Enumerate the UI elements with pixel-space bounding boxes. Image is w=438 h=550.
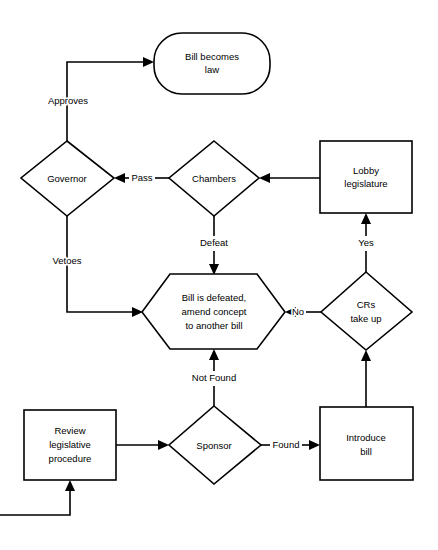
node-label-review-legislative-procedure-line3: procedure xyxy=(49,453,92,464)
node-chambers[interactable]: Chambers xyxy=(169,141,259,216)
node-label-bill-becomes-law-line2: law xyxy=(205,64,219,75)
node-label-governor: Governor xyxy=(47,173,87,184)
node-bill-is-defeated[interactable]: Bill is defeated, amend concept to anoth… xyxy=(142,274,285,349)
node-label-review-legislative-procedure-line1: Review xyxy=(54,425,85,436)
node-sponsor[interactable]: Sponsor xyxy=(169,406,261,484)
node-label-bill-is-defeated-line1: Bill is defeated, xyxy=(182,292,246,303)
edge-label-not-found: Not Found xyxy=(192,372,236,383)
arrowhead-icon xyxy=(361,213,371,224)
node-label-bill-is-defeated-line3: to another bill xyxy=(185,320,242,331)
node-crs-take-up[interactable]: CRs take up xyxy=(321,272,412,350)
arrowhead-icon xyxy=(259,173,270,183)
node-introduce-bill[interactable]: Introduce bill xyxy=(320,407,413,480)
edge-loop-to-review-legislative-procedure xyxy=(0,480,75,515)
arrowhead-icon xyxy=(209,349,219,360)
edge-label-defeat: Defeat xyxy=(200,237,228,248)
node-label-lobby-legislature-line2: legislature xyxy=(344,178,387,189)
node-governor[interactable]: Governor xyxy=(21,141,114,216)
node-label-crs-take-up-line2: take up xyxy=(350,313,381,324)
arrowhead-icon xyxy=(143,57,154,67)
node-review-legislative-procedure[interactable]: Review legislative procedure xyxy=(24,410,116,480)
edge-review-legislative-procedure-to-sponsor xyxy=(116,440,169,450)
edge-introduce-bill-to-crs-take-up xyxy=(361,350,371,407)
arrowhead-icon xyxy=(65,480,75,491)
node-shape-diamond xyxy=(321,272,412,350)
flowchart-diagram: Bill becomes law Governor Chambers Lobby… xyxy=(0,0,438,550)
edge-label-no: No xyxy=(292,306,304,317)
node-label-introduce-bill-line2: bill xyxy=(360,446,372,457)
edge-label-approves: Approves xyxy=(48,95,88,106)
node-label-bill-is-defeated-line2: amend concept xyxy=(182,306,247,317)
node-label-sponsor: Sponsor xyxy=(196,440,231,451)
arrowhead-icon xyxy=(114,173,125,183)
edge-label-vetoes: Vetoes xyxy=(52,255,81,266)
node-bill-becomes-law[interactable]: Bill becomes law xyxy=(154,33,270,94)
node-label-lobby-legislature-line1: Lobby xyxy=(353,165,379,176)
edge-label-found: Found xyxy=(273,439,300,450)
arrowhead-icon xyxy=(361,350,371,361)
node-label-chambers: Chambers xyxy=(192,173,236,184)
node-label-introduce-bill-line1: Introduce xyxy=(346,432,386,443)
node-label-review-legislative-procedure-line2: legislative xyxy=(49,439,91,450)
node-label-bill-becomes-law-line1: Bill becomes xyxy=(185,51,239,62)
edge-label-pass: Pass xyxy=(131,172,152,183)
edge-line xyxy=(0,487,70,515)
flowchart-canvas: Bill becomes law Governor Chambers Lobby… xyxy=(0,0,438,550)
node-label-crs-take-up-line1: CRs xyxy=(357,299,376,310)
edge-label-yes: Yes xyxy=(358,237,374,248)
node-lobby-legislature[interactable]: Lobby legislature xyxy=(320,141,412,213)
edge-governor-to-bill-is-defeated xyxy=(67,216,143,317)
arrowhead-icon xyxy=(158,440,169,450)
node-shape-rectangle xyxy=(320,407,413,480)
edge-lobby-legislature-to-chambers xyxy=(259,173,320,183)
arrowhead-icon xyxy=(309,440,320,450)
